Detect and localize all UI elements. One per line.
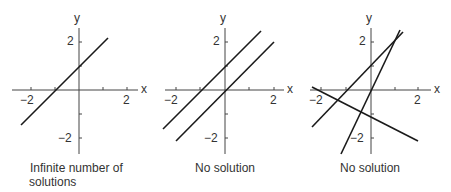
x-axis-label: x [141, 82, 147, 96]
panel-1 [12, 28, 138, 154]
line-y-eq-x-plus-1 [163, 31, 261, 129]
tick-y-neg2: −2 [350, 131, 364, 145]
caption-panel-1-line1: Infinite number of [30, 161, 123, 175]
tick-y-2: 2 [67, 34, 74, 48]
tick-x-neg2: −2 [20, 93, 34, 107]
tick-y-neg2: −2 [58, 131, 72, 145]
caption-panel-1-line2: solutions [29, 175, 76, 189]
y-axis-label: y [74, 11, 80, 25]
tick-x-neg2: −2 [309, 93, 323, 107]
x-axis-label: x [434, 82, 440, 96]
tick-y-2: 2 [359, 34, 366, 48]
caption-panel-2: No solution [195, 161, 255, 175]
tick-y-neg2: −2 [204, 131, 218, 145]
line-y-eq-x-plus-1 [21, 38, 108, 125]
tick-x-2: 2 [270, 93, 277, 107]
y-axis-label: y [366, 11, 372, 25]
y-axis-label: y [220, 11, 226, 25]
line-negative-slope [312, 87, 418, 141]
tick-x-neg2: −2 [164, 93, 178, 107]
tick-y-2: 2 [213, 34, 220, 48]
tick-x-2: 2 [123, 93, 130, 107]
x-axis-label: x [287, 82, 293, 96]
tick-x-2: 2 [414, 93, 421, 107]
line-y-eq-x-plus-1 [312, 32, 403, 127]
caption-panel-3: No solution [340, 161, 400, 175]
